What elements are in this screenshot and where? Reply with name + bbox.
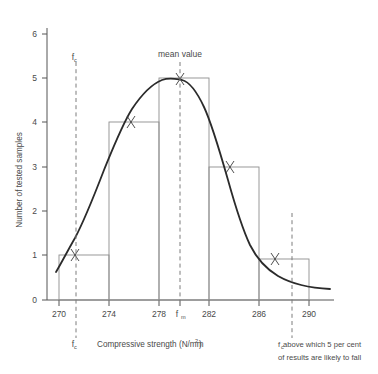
note-line1-rest: above which 5 per cent bbox=[283, 340, 362, 349]
x-tick-label-286: 286 bbox=[252, 309, 266, 319]
y-tick-label-3: 3 bbox=[32, 162, 37, 172]
x-tick-label-290: 290 bbox=[302, 309, 316, 319]
fc-left-top-sub: c bbox=[74, 57, 77, 63]
x-tick-label-fm-sub: m bbox=[181, 314, 186, 320]
x-axis-title-main: Compressive strength (N/mm bbox=[97, 340, 204, 349]
x-tick-label-274: 274 bbox=[102, 309, 116, 319]
x-axis-ticks bbox=[59, 300, 309, 306]
bar-278-282 bbox=[159, 78, 209, 300]
y-axis-ticks bbox=[42, 34, 47, 300]
y-tick-label-4: 4 bbox=[32, 117, 37, 127]
x-axis-title-end: ) bbox=[199, 340, 202, 349]
compressive-strength-histogram: 6 5 4 3 2 1 0 Number of tested samples 2… bbox=[0, 0, 378, 374]
x-axis-title-sup: 2 bbox=[195, 338, 198, 344]
mean-value-label: mean value bbox=[158, 49, 202, 59]
chart-container: 6 5 4 3 2 1 0 Number of tested samples 2… bbox=[0, 0, 378, 374]
x-tick-label-270: 270 bbox=[52, 309, 66, 319]
x-tick-label-fm-base: f bbox=[176, 309, 179, 319]
y-tick-label-6: 6 bbox=[32, 29, 37, 39]
y-axis-title: Number of tested samples bbox=[15, 132, 24, 228]
x-axis-title: Compressive strength (N/mm 2 ) bbox=[97, 338, 204, 349]
curve-data-markers bbox=[71, 73, 279, 265]
fc-left-bottom-sub: c bbox=[74, 344, 77, 350]
bar-270-274 bbox=[59, 255, 109, 300]
y-tick-label-5: 5 bbox=[32, 73, 37, 83]
y-tick-label-0: 0 bbox=[32, 295, 37, 305]
normal-distribution-curve bbox=[56, 78, 330, 289]
bar-282-286 bbox=[209, 167, 259, 300]
y-tick-label-1: 1 bbox=[32, 250, 37, 260]
x-tick-label-282: 282 bbox=[202, 309, 216, 319]
x-tick-label-278: 278 bbox=[152, 309, 166, 319]
fc-right-note: f c above which 5 per cent of results ar… bbox=[278, 340, 362, 362]
note-line2: of results are likely to fall bbox=[278, 353, 361, 362]
fc-left-label-top: f c bbox=[72, 52, 77, 63]
fc-left-label-bottom: f c bbox=[72, 339, 77, 350]
bar-274-278 bbox=[109, 122, 159, 300]
y-tick-label-2: 2 bbox=[32, 206, 37, 216]
x-tick-label-fm: f m bbox=[176, 309, 186, 320]
